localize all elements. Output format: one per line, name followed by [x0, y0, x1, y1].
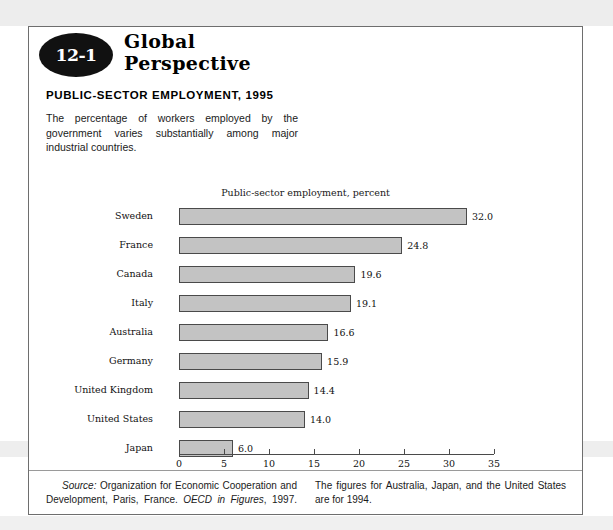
chart-bar-track: 19.1 [179, 295, 494, 312]
chart-axis-tick [494, 449, 495, 454]
chart-axis-tick [179, 449, 180, 454]
chart-axis-tick [224, 449, 225, 454]
page-title: PUBLIC-SECTOR EMPLOYMENT, 1995 [46, 89, 273, 101]
chart-bar-value-label: 15.9 [327, 356, 348, 367]
intro-paragraph: The percentage of workers employed by th… [46, 111, 298, 155]
source-label: Source: [62, 480, 96, 491]
chart-axis-tick-label: 20 [353, 458, 365, 469]
chart-category-label: Canada [29, 268, 153, 279]
chart-plot-area: Sweden32.0France24.8Canada19.6Italy19.1A… [29, 205, 582, 466]
note-divider [29, 470, 582, 471]
chart-category-label: United Kingdom [29, 384, 153, 395]
page-background-band-bottom [0, 516, 613, 530]
chart-bar-row: Canada19.6 [29, 263, 582, 292]
chart-bar [179, 237, 402, 254]
source-note: Source: Organization for Economic Cooper… [46, 479, 566, 507]
chart-bar-row: France24.8 [29, 234, 582, 263]
chart-x-axis: 05101520253035 [179, 454, 494, 455]
chart-bar-row: United Kingdom14.4 [29, 379, 582, 408]
chapter-badge-label: 12-1 [55, 46, 96, 65]
chart-bar-value-label: 32.0 [472, 211, 493, 222]
chart-bar-value-label: 19.6 [360, 269, 381, 280]
page-background-band-top [0, 0, 613, 26]
series-title-line-2: Perspective [124, 52, 251, 74]
chart-category-label: Japan [29, 442, 153, 453]
chart-axis-tick-label: 5 [221, 458, 227, 469]
chart-bar-value-label: 16.6 [333, 327, 354, 338]
chart-bar-track: 19.6 [179, 266, 494, 283]
chart-bar [179, 208, 467, 225]
bar-chart: Public-sector employment, percent Sweden… [29, 187, 582, 437]
chart-axis-tick [269, 449, 270, 454]
chart-axis-tick-label: 10 [263, 458, 275, 469]
chart-bar-track: 32.0 [179, 208, 494, 225]
chart-bar-track: 14.0 [179, 411, 494, 428]
chart-title: Public-sector employment, percent [29, 187, 582, 198]
chart-bar [179, 382, 309, 399]
chart-axis-tick-label: 0 [176, 458, 182, 469]
chart-bar-value-label: 24.8 [407, 240, 428, 251]
chart-category-label: Australia [29, 326, 153, 337]
series-title-line-1: Global [124, 30, 251, 52]
chart-axis-tick [314, 449, 315, 454]
chart-bar [179, 411, 305, 428]
chart-bar-track: 16.6 [179, 324, 494, 341]
chart-axis-tick-label: 15 [308, 458, 320, 469]
chart-category-label: United States [29, 413, 153, 424]
box-header: 12-1 Global Perspective [29, 27, 582, 83]
chart-bar-value-label: 14.4 [314, 385, 335, 396]
chart-bar [179, 266, 355, 283]
chart-axis-tick [359, 449, 360, 454]
chart-bar-value-label: 14.0 [310, 414, 331, 425]
chart-bar-row: Italy19.1 [29, 292, 582, 321]
chart-bar [179, 353, 322, 370]
chart-bar-track: 14.4 [179, 382, 494, 399]
chart-axis-tick-label: 35 [488, 458, 500, 469]
chart-bar [179, 324, 328, 341]
chart-bar-value-label: 6.0 [238, 443, 253, 454]
source-publication-title: OECD in Figures [183, 494, 264, 505]
chart-axis-tick-label: 25 [398, 458, 410, 469]
chapter-badge: 12-1 [39, 33, 113, 77]
chart-bar-value-label: 19.1 [356, 298, 377, 309]
chart-bar-row: Australia16.6 [29, 321, 582, 350]
chart-bar-track: 15.9 [179, 353, 494, 370]
chart-category-label: Sweden [29, 210, 153, 221]
chart-axis-tick [449, 449, 450, 454]
series-title: Global Perspective [124, 30, 251, 74]
chart-bar-row: Germany15.9 [29, 350, 582, 379]
chart-category-label: Italy [29, 297, 153, 308]
source-text-2: , 1997. The figures for Australia, Japan… [264, 480, 566, 505]
chart-bar-row: United States14.0 [29, 408, 582, 437]
chart-category-label: Germany [29, 355, 153, 366]
global-perspective-box: 12-1 Global Perspective PUBLIC-SECTOR EM… [28, 26, 583, 515]
chart-axis-tick-label: 30 [443, 458, 455, 469]
chart-bar-row: Sweden32.0 [29, 205, 582, 234]
chart-bar-track: 24.8 [179, 237, 494, 254]
chart-bar [179, 295, 351, 312]
chart-category-label: France [29, 239, 153, 250]
chart-axis-tick [404, 449, 405, 454]
